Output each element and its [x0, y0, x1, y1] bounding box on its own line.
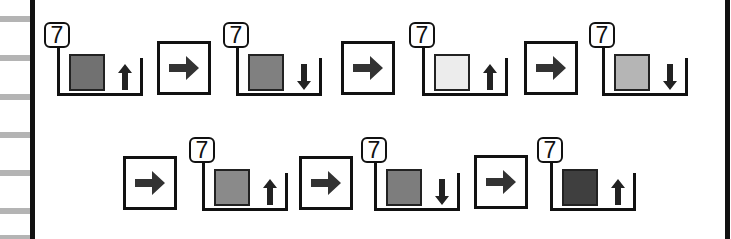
step-badge: 7 — [223, 22, 249, 48]
step-3: 7 — [409, 22, 509, 102]
arrow-down-icon — [297, 64, 311, 90]
margin-stripe — [0, 55, 30, 61]
tray-wall — [285, 173, 288, 211]
margin-stripe — [0, 235, 30, 239]
arrow-up-icon — [483, 64, 497, 90]
next-arrow-box — [299, 156, 353, 210]
color-swatch — [248, 54, 284, 91]
next-arrow-box — [341, 41, 395, 95]
arrow-down-icon — [435, 179, 449, 205]
color-swatch — [386, 169, 422, 206]
tray-wall — [685, 58, 688, 96]
margin-stripe — [0, 94, 30, 100]
right-border-line — [725, 0, 730, 239]
tray-wall — [319, 58, 322, 96]
tray-wall — [505, 58, 508, 96]
color-swatch — [434, 54, 470, 91]
step-6: 7 — [361, 137, 461, 217]
step-2: 7 — [223, 22, 323, 102]
step-1: 7 — [44, 22, 144, 102]
color-swatch — [562, 169, 598, 206]
margin-stripe — [0, 132, 30, 138]
color-swatch — [614, 54, 650, 91]
margin-stripe — [0, 170, 30, 176]
margin-stripe — [0, 16, 30, 22]
color-swatch — [214, 169, 250, 206]
step-5: 7 — [189, 137, 289, 217]
arrow-right-icon — [536, 56, 566, 80]
tray-wall — [633, 173, 636, 211]
next-arrow-box — [123, 156, 177, 210]
step-badge: 7 — [361, 137, 387, 163]
arrow-right-icon — [169, 56, 199, 80]
step-badge: 7 — [537, 137, 563, 163]
step-badge: 7 — [44, 22, 70, 48]
step-badge: 7 — [189, 137, 215, 163]
next-arrow-box — [524, 41, 578, 95]
arrow-right-icon — [311, 171, 341, 195]
color-swatch — [69, 54, 105, 91]
step-7: 7 — [537, 137, 637, 217]
step-badge: 7 — [409, 22, 435, 48]
arrow-up-icon — [611, 179, 625, 205]
left-border-line — [30, 0, 35, 239]
arrow-right-icon — [135, 171, 165, 195]
step-badge: 7 — [589, 22, 615, 48]
arrow-right-icon — [486, 170, 516, 194]
margin-stripe — [0, 208, 30, 214]
tray-wall — [140, 58, 143, 96]
arrow-up-icon — [263, 179, 277, 205]
next-arrow-box — [474, 155, 528, 209]
tray-wall — [457, 173, 460, 211]
arrow-down-icon — [663, 64, 677, 90]
arrow-right-icon — [353, 56, 383, 80]
arrow-up-icon — [118, 64, 132, 90]
next-arrow-box — [157, 41, 211, 95]
step-4: 7 — [589, 22, 689, 102]
